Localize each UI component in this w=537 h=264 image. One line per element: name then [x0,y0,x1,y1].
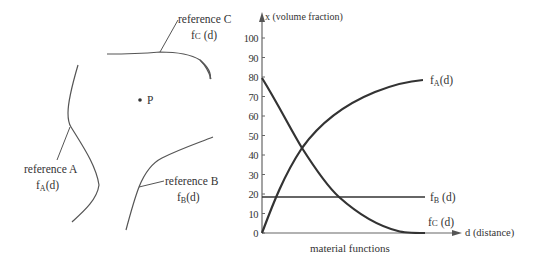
y-tick-10: 10 [249,209,259,220]
curve-fa [262,80,423,233]
y-tick-40: 40 [249,150,259,161]
chart-caption: material functions [310,242,390,254]
fa-label: fA(d) [430,74,453,88]
y-tick-0: 0 [253,228,258,239]
point-p-marker [138,98,142,102]
y-axis-label: x (volume fraction) [265,11,343,23]
reference-region-diagram: reference A fA(d) reference B fB(d) refe… [24,13,232,230]
fb-label: fB (d) [430,191,456,205]
reference-c-boundary [107,52,210,79]
reference-c-boundary-tail [200,60,211,79]
reference-c-leader [160,20,178,52]
reference-a-boundary [68,65,99,222]
reference-b-leader [139,181,164,187]
point-p-label: P [147,94,153,106]
reference-c-label: reference C [178,13,232,25]
fc-label: fC (d) [428,216,454,229]
reference-a-leader [57,127,70,160]
y-tick-80: 80 [249,72,259,83]
x-axis-label: d (distance) [465,227,515,239]
reference-a-label: reference A [24,163,78,175]
y-tick-60: 60 [249,111,259,122]
y-tick-30: 30 [249,170,259,181]
reference-c-func: fC (d) [191,29,217,42]
y-tick-90: 90 [249,53,259,64]
y-tick-20: 20 [249,189,259,200]
curve-fc [262,78,425,233]
reference-b-func: fB(d) [177,191,200,205]
reference-a-func: fA(d) [36,179,59,193]
material-functions-chart: x (volume fraction) d (distance) 0 10 20… [244,11,515,254]
y-tick-100: 100 [244,33,259,44]
reference-b-label: reference B [165,175,219,187]
diagram-canvas: reference A fA(d) reference B fB(d) refe… [0,0,537,264]
y-tick-50: 50 [249,131,259,142]
y-tick-70: 70 [249,92,259,103]
x-axis-arrow-icon [452,230,462,236]
